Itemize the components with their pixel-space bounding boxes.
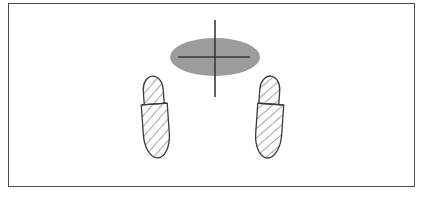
right-foot-heel	[254, 103, 284, 159]
left-foot-group	[139, 75, 171, 159]
figure-root: Foot placement diagram with body center-…	[0, 0, 424, 199]
left-heel-shape	[141, 103, 171, 159]
right-foot-group	[254, 75, 286, 159]
right-foot-forefoot	[259, 75, 281, 105]
right-forefoot-shape	[259, 75, 281, 105]
right-heel-shape	[254, 103, 284, 159]
left-foot-heel	[141, 103, 171, 159]
figure-drawing-canvas	[0, 0, 424, 199]
left-foot-forefoot	[142, 75, 164, 105]
left-forefoot-shape	[142, 75, 164, 105]
